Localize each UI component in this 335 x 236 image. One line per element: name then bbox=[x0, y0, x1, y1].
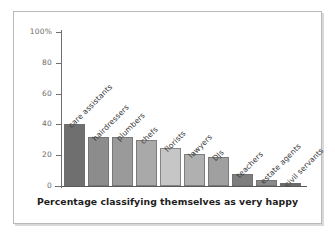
x-axis-title: Percentage classifying themselves as ver… bbox=[0, 196, 335, 207]
y-axis-tick bbox=[56, 186, 62, 187]
y-axis-tick-label: 0 bbox=[47, 182, 52, 190]
bar-care-assistants bbox=[64, 124, 85, 186]
y-axis-tick-label: 20 bbox=[42, 151, 52, 159]
bar-hairdressers bbox=[88, 137, 109, 186]
bar-florists bbox=[160, 148, 181, 187]
x-axis-line bbox=[55, 186, 307, 187]
y-axis-tick-label: 40 bbox=[42, 120, 52, 128]
y-axis-tick-label: 80 bbox=[42, 59, 52, 67]
bar-chefs bbox=[136, 140, 157, 186]
chart-figure: 020406080100% care assistantshairdresser… bbox=[0, 0, 335, 236]
y-axis-tick-label: 60 bbox=[42, 90, 52, 98]
bar-plumbers bbox=[112, 137, 133, 186]
y-axis-tick-label: 100% bbox=[30, 28, 52, 36]
plot-area bbox=[62, 32, 305, 186]
